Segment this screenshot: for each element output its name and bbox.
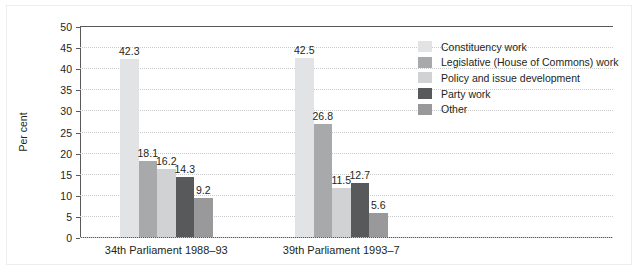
bar: 42.5: [295, 58, 314, 237]
y-tick-mark: [76, 154, 80, 155]
bar: 12.7: [351, 183, 370, 237]
x-axis-category-label: 34th Parliament 1988–93: [105, 244, 228, 256]
gridline: [80, 237, 613, 238]
legend-swatch: [418, 41, 432, 52]
bar-value-label: 42.5: [294, 44, 314, 56]
bar-value-label: 14.3: [175, 163, 195, 175]
legend-label: Party work: [441, 88, 491, 100]
y-tick-label: 45: [60, 42, 72, 54]
x-axis-category-label: 39th Parliament 1993–7: [283, 244, 400, 256]
bar: 26.8: [314, 124, 333, 237]
legend-item: Constituency work: [418, 39, 628, 55]
y-tick-label: 35: [60, 84, 72, 96]
y-tick-mark: [76, 217, 80, 218]
y-tick-mark: [76, 27, 80, 28]
bar: 11.5: [332, 188, 351, 237]
gridline: [80, 132, 613, 133]
y-tick-label: 25: [60, 127, 72, 139]
legend-label: Constituency work: [441, 41, 527, 53]
gridline: [80, 153, 613, 154]
bar-value-label: 16.2: [156, 155, 176, 167]
bar-value-label: 26.8: [313, 110, 333, 122]
bar: 42.3: [120, 59, 139, 238]
legend-swatch: [418, 88, 432, 99]
y-tick-label: 20: [60, 148, 72, 160]
y-tick-mark: [76, 48, 80, 49]
bar-value-label: 9.2: [196, 184, 211, 196]
y-tick-label: 40: [60, 63, 72, 75]
legend-label: Legislative (House of Commons) work: [441, 56, 618, 68]
bar: 18.1: [139, 161, 158, 237]
legend-item: Legislative (House of Commons) work: [418, 55, 628, 71]
y-tick-mark: [76, 175, 80, 176]
y-tick-mark: [76, 133, 80, 134]
bar-value-label: 18.1: [138, 147, 158, 159]
y-tick-label: 30: [60, 105, 72, 117]
bar-value-label: 11.5: [331, 174, 351, 186]
y-tick-mark: [76, 90, 80, 91]
y-axis-title: Per cent: [17, 112, 29, 151]
bar: 16.2: [157, 169, 176, 237]
bar: 14.3: [176, 177, 195, 237]
y-tick-mark: [76, 238, 80, 239]
legend-swatch: [418, 104, 432, 115]
legend-item: Party work: [418, 86, 628, 102]
bar-value-label: 42.3: [119, 45, 139, 57]
legend-swatch: [418, 57, 432, 68]
top-rule: [80, 26, 613, 27]
y-tick-label: 0: [66, 232, 72, 244]
bar: 9.2: [194, 198, 213, 237]
y-tick-label: 50: [60, 21, 72, 33]
bar-value-label: 5.6: [371, 199, 386, 211]
legend-swatch: [418, 72, 432, 83]
y-tick-mark: [76, 111, 80, 112]
y-tick-label: 15: [60, 169, 72, 181]
y-tick-label: 5: [66, 211, 72, 223]
chart-figure: Per cent 05101520253035404550 42.318.116…: [6, 5, 632, 265]
legend-item: Policy and issue development: [418, 70, 628, 86]
legend-label: Policy and issue development: [441, 72, 580, 84]
y-tick-mark: [76, 196, 80, 197]
legend-item: Other: [418, 101, 628, 117]
chart-legend: Constituency workLegislative (House of C…: [418, 39, 628, 117]
y-tick-label: 10: [60, 190, 72, 202]
y-tick-mark: [76, 69, 80, 70]
bar: 5.6: [369, 213, 388, 237]
legend-label: Other: [441, 103, 467, 115]
bar-value-label: 12.7: [350, 169, 370, 181]
